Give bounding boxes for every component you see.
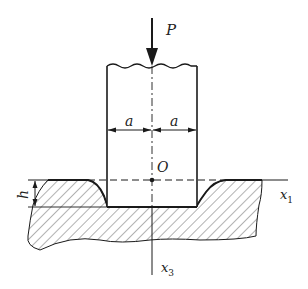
punch-diagram: P a a O h x1 x3 — [0, 0, 308, 289]
origin-point — [150, 178, 155, 183]
origin-label: O — [157, 159, 169, 175]
load-arrow — [146, 18, 158, 66]
half-width-label-left: a — [125, 113, 133, 129]
load-label: P — [165, 21, 177, 39]
depth-label: h — [15, 190, 31, 199]
half-width-label-right: a — [170, 113, 178, 129]
x1-axis-label: x1 — [280, 187, 293, 205]
x3-axis-label: x3 — [161, 260, 174, 278]
